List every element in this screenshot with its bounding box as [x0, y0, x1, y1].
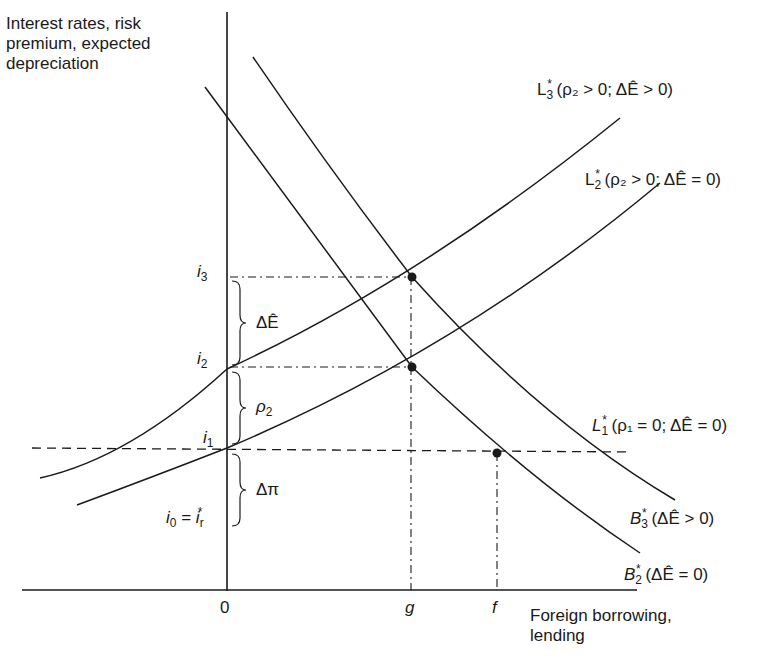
curve-label-l3: L3* (ρ₂ > 0; ΔÊ > 0): [537, 78, 673, 103]
brace-rho2: [232, 372, 246, 444]
y-axis-title-line-2: premium, expected: [6, 34, 151, 54]
y-axis-title-line-3: depreciation: [6, 54, 151, 74]
y-axis-title: Interest rates, risk premium, expected d…: [6, 14, 151, 74]
brace-delta-e: [232, 281, 246, 365]
curve-l2: [77, 183, 660, 505]
curve-label-l2: L2* (ρ₂ > 0; ΔÊ = 0): [585, 168, 721, 193]
equilibrium-point-f: [493, 449, 502, 458]
x-tick-origin: 0: [220, 598, 229, 618]
y-level-i1: i1: [203, 428, 213, 451]
curve-label-b3: B3* (ΔÊ > 0): [630, 507, 714, 532]
brace-label-delta-pi: Δπ: [256, 480, 279, 500]
curve-label-b2: B2* (ΔÊ = 0): [624, 563, 708, 588]
equilibrium-point-i3: [408, 273, 417, 282]
curve-l3: [40, 118, 620, 478]
brace-label-delta-e-hat: ΔÊ: [256, 313, 279, 333]
y-level-i0: i0 = ir*: [166, 506, 202, 531]
x-tick-f: f: [492, 598, 497, 618]
y-axis-title-line-1: Interest rates, risk: [6, 14, 151, 34]
x-axis-title: Foreign borrowing, lending: [530, 606, 672, 646]
brace-delta-pi: [232, 454, 246, 526]
y-level-i3: i3: [197, 262, 207, 285]
brace-label-rho2: ρ2: [256, 397, 272, 420]
curve-l1-horizontal: [32, 448, 630, 452]
x-axis-title-line-1: Foreign borrowing,: [530, 606, 672, 626]
curve-label-l1: L1* (ρ₁ = 0; ΔÊ = 0): [592, 414, 727, 439]
x-axis-title-line-2: lending: [530, 626, 672, 646]
equilibrium-point-i2: [408, 363, 417, 372]
x-tick-g: g: [405, 598, 414, 618]
y-level-i2: i2: [197, 349, 207, 372]
